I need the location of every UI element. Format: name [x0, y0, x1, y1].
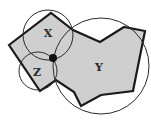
region-polygon [9, 13, 145, 106]
junction-dot [49, 54, 57, 62]
diagram-canvas: X Y Z [0, 0, 151, 122]
label-x: X [44, 27, 53, 40]
label-y: Y [94, 61, 103, 74]
label-z: Z [33, 66, 41, 79]
